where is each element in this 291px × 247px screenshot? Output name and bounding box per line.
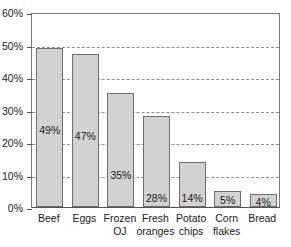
y-axis-tick [27, 112, 32, 113]
y-axis-tick [27, 47, 32, 48]
x-axis-label-line-1: Eggs [72, 212, 96, 224]
x-axis-label-line-2: flakes [205, 225, 249, 238]
y-axis-tick-label: 10% [2, 171, 23, 182]
y-axis-tick-label: 40% [2, 73, 23, 84]
y-axis-tick-label: 30% [2, 106, 23, 117]
plot-area: 49%47%35%28%14%5%4% [31, 13, 280, 208]
x-axis-label-line-1: Frozen [104, 212, 137, 224]
y-axis-tick [27, 144, 32, 145]
y-axis-tick-label: 20% [2, 138, 23, 149]
gridline [32, 47, 279, 48]
x-axis-label-line-1: Beef [38, 212, 60, 224]
bar-value-label: 14% [179, 193, 206, 204]
y-axis-tick-label: 50% [2, 41, 23, 52]
bar-value-label: 5% [214, 195, 241, 206]
bar-chart: 0%10%20%30%40%50%60% 49%47%35%28%14%5%4%… [0, 0, 291, 247]
bar-value-label: 47% [72, 131, 99, 142]
x-axis-label-line-1: Corn [215, 212, 238, 224]
bar-value-label: 35% [107, 170, 134, 181]
gridline [32, 79, 279, 80]
y-axis-tick-label: 60% [2, 8, 23, 19]
bar-value-label: 4% [250, 197, 277, 208]
x-axis-label-line-1: Potato [176, 212, 206, 224]
y-axis-tick [27, 14, 32, 15]
x-axis-label-line-1: Bread [248, 212, 276, 224]
x-axis-label-line-1: Fresh [142, 212, 169, 224]
y-axis-tick-label: 0% [8, 203, 23, 214]
y-axis-tick [27, 79, 32, 80]
x-axis-category-label: Bread [240, 212, 284, 225]
y-axis-tick [27, 177, 32, 178]
bar-value-label: 49% [36, 125, 63, 136]
gridline [32, 112, 279, 113]
bar-value-label: 28% [143, 193, 170, 204]
y-axis-tick [27, 209, 32, 210]
bar [107, 93, 134, 207]
